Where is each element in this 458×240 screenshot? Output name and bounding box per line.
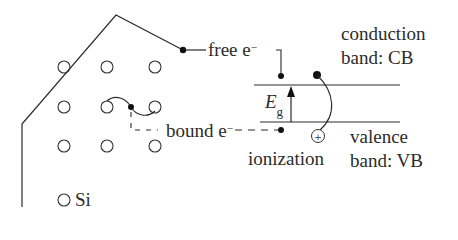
superscript-minus: − [227,122,233,134]
valence-band-label: valence band: VB [350,126,423,171]
si-atom-icon [58,101,70,113]
valence-band-line2: band: VB [350,150,423,171]
bound-electron-text: bound e [166,120,227,141]
free-electron-dot-band [278,73,284,79]
silicon-legend-label: Si [75,189,91,210]
ionization-label: ionization [248,148,324,169]
conduction-band-line2: band: CB [341,47,425,68]
si-atom-icon [101,61,113,73]
si-atom-icon [58,61,70,73]
conduction-band-label: conduction band: CB [341,23,425,68]
free-electron-text: free e [208,39,251,60]
band-gap-label: Eg [265,91,283,117]
arrowhead-icon [287,86,295,97]
si-legend-icon [58,194,70,206]
bound-electron-label: bound e− [166,120,233,141]
valence-band-line1: valence [350,126,423,147]
band-gap-subscript: g [277,104,284,119]
si-atom-icon [101,101,113,113]
si-atom-icon [149,140,161,152]
conduction-band-line1: conduction [341,23,425,44]
si-atom-icon [58,140,70,152]
free-electron-dot-crystal [180,47,186,53]
band-gap-symbol: E [265,91,277,112]
superscript-minus: − [251,41,257,53]
free-electron-label: free e− [208,39,257,60]
silicon-legend-text: Si [75,189,91,210]
si-atom-icon [101,140,113,152]
si-atom-icon [149,61,161,73]
free-electron-band-leader [276,50,281,73]
valence-electron-dot [278,127,284,133]
silicon-lattice [58,61,161,206]
ionization-text: ionization [248,148,324,169]
hole-plus-icon: + [314,132,322,142]
bound-electron-dot [128,104,134,110]
